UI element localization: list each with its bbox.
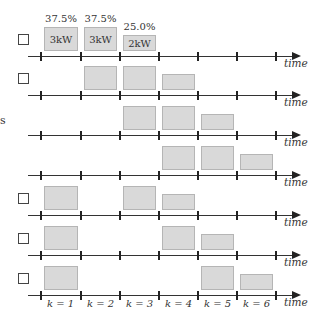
- axis-tick: [158, 171, 160, 180]
- power-block-short: [162, 194, 195, 210]
- axis-tick: [275, 251, 277, 260]
- axis-tick: [119, 211, 121, 220]
- axis-tick: [119, 251, 121, 260]
- time-axis-line: [28, 175, 294, 176]
- axis-tick: [275, 211, 277, 220]
- time-axis-line: [28, 56, 294, 57]
- axis-tick: [40, 171, 42, 180]
- slot-label-k4: k = 4: [159, 298, 198, 309]
- axis-tick: [80, 251, 82, 260]
- power-block-tall: [84, 66, 117, 90]
- axis-tick: [197, 251, 199, 260]
- row-checkbox-6[interactable]: [18, 233, 29, 244]
- axis-tick: [236, 251, 238, 260]
- power-block-short: [201, 114, 234, 130]
- axis-tick: [80, 52, 82, 61]
- time-axis-label: time: [284, 57, 308, 69]
- axis-tick: [40, 52, 42, 61]
- time-axis-label: time: [284, 136, 308, 148]
- axis-tick: [80, 91, 82, 100]
- axis-tick: [158, 251, 160, 260]
- power-block-short: [240, 154, 273, 170]
- axis-tick: [119, 91, 121, 100]
- axis-tick: [236, 211, 238, 220]
- time-axis-label: time: [284, 176, 308, 188]
- time-axis-line: [28, 295, 294, 296]
- power-block-tall: [201, 266, 234, 290]
- axis-tick: [158, 131, 160, 140]
- axis-tick: [80, 131, 82, 140]
- axis-tick: [119, 131, 121, 140]
- time-axis-line: [28, 255, 294, 256]
- axis-tick: [119, 52, 121, 61]
- axis-tick: [275, 171, 277, 180]
- time-axis-line: [28, 135, 294, 136]
- power-block-short: [240, 274, 273, 290]
- cropped-text-fragment: s: [0, 114, 6, 127]
- power-block-tall: [44, 186, 78, 210]
- power-block-tall: [44, 226, 78, 250]
- axis-tick: [40, 251, 42, 260]
- slot-label-k6: k = 6: [237, 298, 276, 309]
- axis-tick: [80, 211, 82, 220]
- axis-tick: [40, 211, 42, 220]
- axis-tick: [197, 131, 199, 140]
- time-axis-label: time: [284, 256, 308, 268]
- time-axis-label: time: [284, 96, 308, 108]
- schedule-row-7: time: [0, 0, 318, 40]
- time-axis-label: time: [284, 216, 308, 228]
- axis-tick: [236, 131, 238, 140]
- time-axis-line: [28, 215, 294, 216]
- axis-tick: [197, 171, 199, 180]
- axis-tick: [197, 211, 199, 220]
- axis-tick: [80, 171, 82, 180]
- power-block-tall: [44, 266, 78, 290]
- time-axis-line: [28, 95, 294, 96]
- slot-label-k2: k = 2: [81, 298, 120, 309]
- axis-tick: [158, 211, 160, 220]
- power-block-tall: [162, 226, 195, 250]
- power-block-short: [162, 74, 195, 90]
- row-checkbox-7[interactable]: [18, 273, 29, 284]
- slot-label-k1: k = 1: [41, 298, 80, 309]
- power-block-tall: [162, 106, 195, 130]
- axis-tick: [158, 52, 160, 61]
- axis-tick: [236, 52, 238, 61]
- power-block-tall: [123, 106, 156, 130]
- power-block-tall: [162, 146, 195, 170]
- axis-tick: [236, 91, 238, 100]
- axis-tick: [119, 171, 121, 180]
- axis-tick: [275, 131, 277, 140]
- axis-tick: [40, 131, 42, 140]
- power-block-short: [201, 234, 234, 250]
- slot-label-k3: k = 3: [120, 298, 159, 309]
- axis-tick: [197, 52, 199, 61]
- time-axis-label: time: [284, 296, 308, 308]
- axis-tick: [40, 91, 42, 100]
- axis-tick: [197, 91, 199, 100]
- row-checkbox-5[interactable]: [18, 193, 29, 204]
- power-block-tall: [123, 186, 156, 210]
- axis-tick: [275, 52, 277, 61]
- row-checkbox-2[interactable]: [18, 73, 29, 84]
- axis-tick: [275, 91, 277, 100]
- power-block-tall: [201, 146, 234, 170]
- axis-tick: [236, 171, 238, 180]
- slot-label-k5: k = 5: [198, 298, 237, 309]
- power-block-tall: [123, 66, 156, 90]
- axis-tick: [158, 91, 160, 100]
